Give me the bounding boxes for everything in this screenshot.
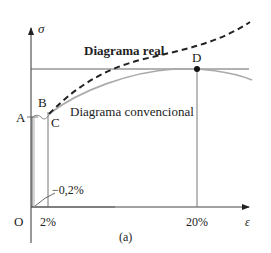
offset-label: −0,2%: [52, 183, 84, 197]
sigma-label: σ: [38, 21, 45, 36]
b-label: B: [38, 95, 47, 110]
c-label: C: [51, 115, 60, 130]
point-d: [194, 66, 200, 72]
tick-20-label: 20%: [186, 215, 208, 229]
tick-2-label: 2%: [40, 215, 56, 229]
epsilon-label: ε: [245, 215, 250, 229]
stress-strain-diagram: σ Diagrama real Diagrama convencional A …: [0, 0, 271, 253]
a-label: A: [16, 110, 26, 125]
origin-label: O: [14, 214, 23, 229]
d-label: D: [192, 50, 201, 65]
conv-label: Diagrama convencional: [70, 104, 194, 119]
real-curve: [49, 22, 250, 114]
real-label: Diagrama real: [84, 43, 165, 58]
caption-label: (a): [119, 230, 132, 244]
